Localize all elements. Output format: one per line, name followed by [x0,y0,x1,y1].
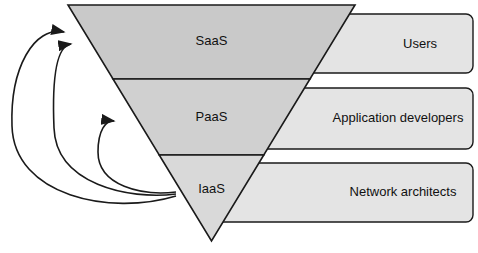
pyramid-layer-paas-label: PaaS [196,109,228,124]
audience-box-application-developers-label: Application developers [333,110,464,125]
audience-box-users-label: Users [403,36,437,51]
pyramid-layer-iaas-label: IaaS [198,181,225,196]
pyramid-layer-saas-label: SaaS [196,33,228,48]
diagram-canvas: Users Application developers Network arc… [0,0,478,253]
pyramid-layer-saas[interactable]: SaaS [68,5,355,79]
audience-box-network-architects-label: Network architects [350,184,457,199]
cloud-service-model-diagram: Users Application developers Network arc… [0,0,478,253]
